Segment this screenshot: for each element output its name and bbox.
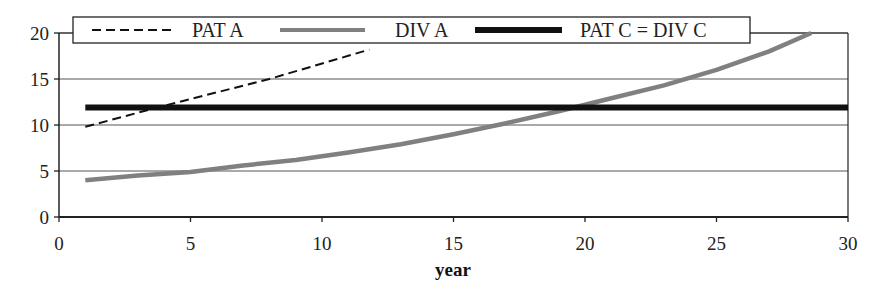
x-tick-label: 20 <box>576 233 595 254</box>
legend-label-pat-a: PAT A <box>192 19 244 41</box>
x-tick-label: 10 <box>313 233 332 254</box>
y-tick-label: 5 <box>40 161 50 182</box>
y-tick-label: 0 <box>40 207 50 228</box>
y-tick-label: 15 <box>30 69 49 90</box>
legend: PAT A DIV A PAT C = DIV C <box>73 17 750 43</box>
y-axis-ticks: 05101520 <box>30 23 59 228</box>
x-axis-title: year <box>435 259 471 280</box>
line-chart: 051015202530 05101520 year PAT A DIV A P… <box>0 0 876 295</box>
y-tick-label: 20 <box>30 23 49 44</box>
x-tick-label: 30 <box>839 233 858 254</box>
series-pat-a <box>85 50 369 127</box>
legend-label-pat-c-div-c: PAT C = DIV C <box>580 19 707 41</box>
x-tick-label: 0 <box>54 233 64 254</box>
y-tick-label: 10 <box>30 115 49 136</box>
x-tick-label: 25 <box>707 233 726 254</box>
x-tick-label: 5 <box>186 233 196 254</box>
x-tick-label: 15 <box>444 233 463 254</box>
x-axis-ticks: 051015202530 <box>54 217 857 254</box>
series-lines <box>85 33 848 180</box>
gridlines <box>59 33 848 171</box>
legend-label-div-a: DIV A <box>395 19 449 41</box>
